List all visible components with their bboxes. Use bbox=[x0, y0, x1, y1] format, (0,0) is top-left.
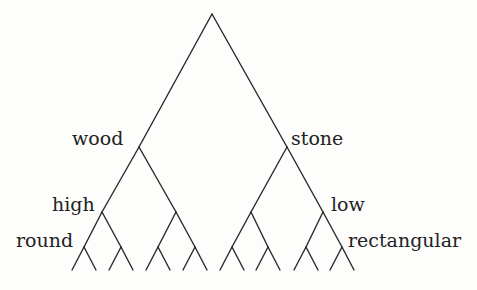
branch-l1-1 bbox=[139, 147, 176, 212]
branch-l2-6 bbox=[306, 212, 323, 247]
branch-root-0 bbox=[139, 14, 212, 147]
label-stone: stone bbox=[291, 129, 343, 148]
branch-l2-7 bbox=[323, 212, 342, 247]
branch-l2-1 bbox=[102, 212, 121, 247]
branch-l1-2 bbox=[251, 147, 287, 212]
leaf-branch-6-right bbox=[306, 247, 318, 270]
branch-l2-5 bbox=[251, 212, 268, 247]
leaf-branch-3-left bbox=[183, 247, 195, 270]
label-round: round bbox=[16, 231, 73, 250]
branch-root-1 bbox=[212, 14, 287, 147]
leaf-branch-3-right bbox=[195, 247, 207, 270]
label-high: high bbox=[52, 195, 95, 214]
tree-diagram: wood stone high low round rectangular bbox=[0, 0, 477, 290]
branch-l2-2 bbox=[158, 212, 176, 247]
branch-l2-4 bbox=[232, 212, 251, 247]
branch-l1-3 bbox=[287, 147, 323, 212]
label-low: low bbox=[331, 195, 365, 214]
leaf-branch-0-left bbox=[72, 247, 84, 270]
leaf-branch-1-left bbox=[109, 247, 121, 270]
label-rectangular: rectangular bbox=[348, 231, 461, 250]
leaf-branch-5-left bbox=[256, 247, 268, 270]
label-wood: wood bbox=[72, 129, 123, 148]
branch-l2-0 bbox=[84, 212, 102, 247]
leaf-branch-5-right bbox=[268, 247, 280, 270]
leaf-branch-6-left bbox=[294, 247, 306, 270]
leaf-branch-2-left bbox=[146, 247, 158, 270]
leaf-branch-4-left bbox=[220, 247, 232, 270]
leaf-branch-0-right bbox=[84, 247, 96, 270]
branch-l2-3 bbox=[176, 212, 195, 247]
leaf-branch-7-left bbox=[330, 247, 342, 270]
branch-l1-0 bbox=[102, 147, 139, 212]
leaf-branch-2-right bbox=[158, 247, 170, 270]
leaf-branch-4-right bbox=[232, 247, 244, 270]
leaf-branch-1-right bbox=[121, 247, 133, 270]
